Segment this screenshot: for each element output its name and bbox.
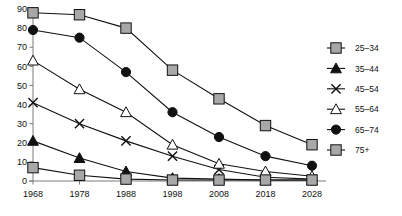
line-chart: 0102030405060708090196819781988199820082… <box>0 0 402 216</box>
y-tick-label: 10 <box>17 157 27 167</box>
data-point <box>214 132 223 141</box>
y-tick-label: 90 <box>17 4 27 14</box>
data-point <box>28 25 37 34</box>
y-tick-label: 30 <box>17 119 27 129</box>
x-tick-label: 1978 <box>69 189 89 199</box>
legend: 25–3435–4445–5455–6465–7475+ <box>327 43 379 155</box>
data-point <box>28 8 38 18</box>
data-point <box>28 162 38 172</box>
y-tick-label: 0 <box>22 176 27 186</box>
data-point <box>28 55 39 65</box>
data-point <box>121 67 130 76</box>
legend-label: 55–64 <box>355 104 379 114</box>
data-point <box>214 158 225 168</box>
x-tick-label: 1988 <box>116 189 136 199</box>
legend-item-5[interactable]: 75+ <box>327 145 369 155</box>
legend-label: 45–54 <box>355 84 379 94</box>
x-tick-label: 1968 <box>23 189 43 199</box>
data-point <box>74 10 84 20</box>
legend-label: 35–44 <box>355 64 379 74</box>
series-line-3 <box>33 61 312 177</box>
legend-label: 65–74 <box>355 125 379 135</box>
data-point <box>331 145 341 155</box>
data-point <box>260 120 270 130</box>
legend-item-2[interactable]: 45–54 <box>327 84 379 94</box>
y-tick-label: 50 <box>17 81 27 91</box>
data-point <box>74 170 84 180</box>
data-point <box>75 119 84 128</box>
y-tick-label: 20 <box>17 138 27 148</box>
y-tick-label: 60 <box>17 62 27 72</box>
data-point <box>307 161 316 170</box>
data-point <box>121 107 132 117</box>
legend-item-3[interactable]: 55–64 <box>327 104 379 115</box>
chart-container: 0102030405060708090196819781988199820082… <box>0 0 402 216</box>
data-point <box>167 65 177 75</box>
data-point <box>168 108 177 117</box>
x-tick-label: 2028 <box>302 189 322 199</box>
data-point <box>121 174 131 184</box>
data-point <box>261 152 270 161</box>
legend-item-1[interactable]: 35–44 <box>327 63 379 74</box>
legend-label: 25–34 <box>355 43 379 53</box>
data-point <box>260 175 270 185</box>
y-tick-label: 70 <box>17 42 27 52</box>
y-tick-label: 40 <box>17 100 27 110</box>
data-point <box>121 136 130 145</box>
data-point <box>74 84 85 94</box>
series-markers-group <box>28 8 318 186</box>
axes-group: 0102030405060708090196819781988199820082… <box>17 4 326 199</box>
data-point <box>167 139 178 149</box>
x-tick-label: 2008 <box>209 189 229 199</box>
data-point <box>74 153 85 163</box>
data-point <box>28 135 39 145</box>
x-tick-label: 2018 <box>255 189 275 199</box>
x-tick-label: 1998 <box>162 189 182 199</box>
data-point <box>168 152 177 161</box>
data-point <box>331 125 340 134</box>
data-point <box>214 175 224 185</box>
data-point <box>214 94 224 104</box>
data-point <box>121 23 131 33</box>
y-tick-label: 80 <box>17 23 27 33</box>
legend-item-0[interactable]: 25–34 <box>327 43 379 53</box>
data-point <box>75 33 84 42</box>
legend-item-4[interactable]: 65–74 <box>327 125 379 135</box>
data-point <box>331 43 341 53</box>
data-point <box>167 175 177 185</box>
legend-label: 75+ <box>355 145 369 155</box>
data-point <box>307 175 317 185</box>
data-point <box>307 139 317 149</box>
